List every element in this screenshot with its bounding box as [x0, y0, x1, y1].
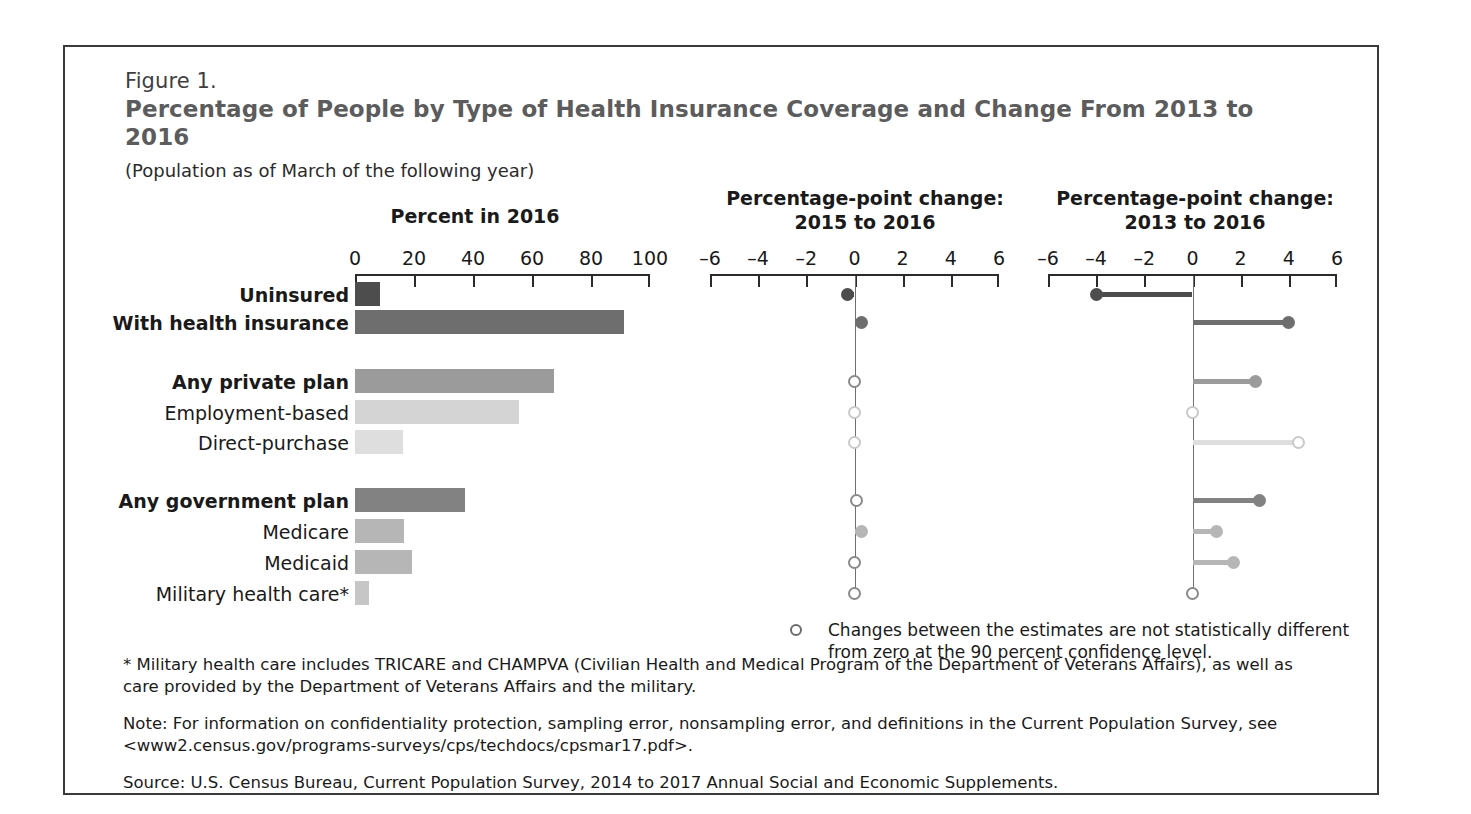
row-label-medicare: Medicare — [65, 523, 349, 542]
right-panel-marker-not-significant — [1186, 406, 1199, 419]
left-panel-tick — [473, 276, 475, 287]
right-panel-tick-label: –4 — [1085, 247, 1107, 269]
footnotes: * Military health care includes TRICARE … — [123, 654, 1333, 794]
footnote-note: Note: For information on confidentiality… — [123, 713, 1333, 757]
right-panel-marker-significant — [1253, 494, 1266, 507]
right-panel-tick-label: –6 — [1037, 247, 1059, 269]
right-panel-stem — [1193, 498, 1260, 503]
right-panel-marker-not-significant — [1292, 436, 1305, 449]
mid-panel-marker-not-significant — [848, 436, 861, 449]
right-panel-tick-labels: –6–4–20246 — [65, 247, 1377, 269]
mid-panel-marker-significant — [855, 525, 868, 538]
mid-panel-marker-not-significant — [848, 406, 861, 419]
bar-employment_based — [355, 400, 519, 424]
row-label-employment-based: Employment-based — [65, 404, 349, 423]
row-label-with-health-insurance: With health insurance — [65, 314, 349, 333]
bar-with_insurance — [355, 310, 624, 334]
left-panel-tick — [532, 276, 534, 287]
bar-military — [355, 581, 369, 605]
bar-medicare — [355, 519, 404, 543]
right-panel-marker-significant — [1210, 525, 1223, 538]
right-panel-tick-label: 4 — [1283, 247, 1295, 269]
right-panel-stem — [1193, 320, 1289, 325]
mid-panel-tick — [903, 276, 905, 287]
left-panel-tick — [591, 276, 593, 287]
left-panel-tick — [648, 276, 650, 287]
right-panel-tick — [1096, 276, 1098, 287]
right-panel-tick-label: 6 — [1331, 247, 1343, 269]
right-panel-marker-significant — [1090, 288, 1103, 301]
mid-panel-tick — [951, 276, 953, 287]
mid-panel-marker-not-significant — [848, 375, 861, 388]
mid-panel-tick — [997, 276, 999, 287]
mid-panel-tick — [806, 276, 808, 287]
row-label-any-government-plan: Any government plan — [65, 492, 349, 511]
left-panel-axis-line — [355, 274, 650, 276]
row-label-military-health-care: Military health care* — [65, 585, 349, 604]
right-panel-tick — [1335, 276, 1337, 287]
bar-any_private — [355, 369, 554, 393]
bar-medicaid — [355, 550, 412, 574]
right-panel-tick — [1241, 276, 1243, 287]
right-panel-stem — [1193, 379, 1256, 384]
right-panel-tick — [1144, 276, 1146, 287]
right-panel-tick-label: –2 — [1134, 247, 1156, 269]
left-panel-tick — [414, 276, 416, 287]
mid-panel-tick — [710, 276, 712, 287]
right-panel-tick-label: 2 — [1235, 247, 1247, 269]
mid-panel-marker-not-significant — [850, 494, 863, 507]
right-panel-marker-significant — [1227, 556, 1240, 569]
row-label-medicaid: Medicaid — [65, 554, 349, 573]
mid-panel-tick — [758, 276, 760, 287]
right-panel-tick — [1289, 276, 1291, 287]
right-panel-marker-significant — [1282, 316, 1295, 329]
mid-panel-marker-not-significant — [848, 556, 861, 569]
mid-panel-marker-significant — [841, 288, 854, 301]
right-panel-tick — [1048, 276, 1050, 287]
footnote-source: Source: U.S. Census Bureau, Current Popu… — [123, 772, 1333, 794]
figure-frame: Figure 1. Percentage of People by Type o… — [63, 45, 1379, 795]
right-panel-marker-not-significant — [1186, 587, 1199, 600]
row-label-uninsured: Uninsured — [65, 286, 349, 305]
right-panel-marker-significant — [1249, 375, 1262, 388]
mid-panel-marker-significant — [855, 316, 868, 329]
mid-panel-marker-not-significant — [848, 587, 861, 600]
bar-uninsured — [355, 282, 380, 306]
open-circle-marker-icon — [790, 624, 802, 636]
footnote-military: * Military health care includes TRICARE … — [123, 654, 1333, 698]
row-label-direct-purchase: Direct-purchase — [65, 434, 349, 453]
right-panel-tick-label: 0 — [1186, 247, 1198, 269]
bar-direct_purchase — [355, 430, 403, 454]
right-panel-stem — [1193, 440, 1299, 445]
row-label-any-private-plan: Any private plan — [65, 373, 349, 392]
bar-any_government — [355, 488, 465, 512]
right-panel-stem — [1096, 292, 1192, 297]
